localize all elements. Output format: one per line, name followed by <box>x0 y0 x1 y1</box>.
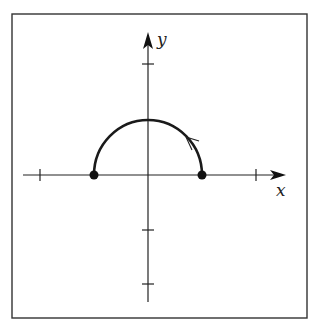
figure-frame <box>12 14 307 318</box>
x-axis-label: x <box>276 180 286 200</box>
endpoint-left-marker <box>90 171 99 180</box>
endpoint-right-marker <box>198 171 207 180</box>
graph-figure: y x <box>0 0 310 327</box>
y-axis-label: y <box>156 29 167 49</box>
